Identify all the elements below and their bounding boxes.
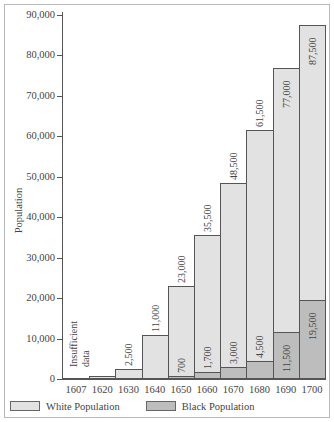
bar-label-white-1660: 35,500: [202, 205, 213, 233]
y-tick-label: 50,000: [10, 171, 55, 183]
y-tick-label: 90,000: [10, 9, 55, 21]
bar-white-1640: [142, 335, 169, 379]
y-axis: [62, 12, 63, 380]
y-tick-label: 30,000: [10, 252, 55, 264]
bar-label-white-1690: 77,000: [281, 80, 292, 108]
x-axis: [62, 379, 326, 380]
y-tick-label: 20,000: [10, 292, 55, 304]
annotation-insufficient: Insufficient: [68, 321, 79, 367]
y-tick-label: 40,000: [10, 211, 55, 223]
legend: White Population Black Population: [10, 398, 280, 414]
bar-black-1660: [194, 372, 221, 379]
y-tick-label: 70,000: [10, 90, 55, 102]
legend-swatch-white: [10, 401, 40, 411]
bar-label-white-1700: 87,500: [307, 38, 318, 66]
legend-swatch-black: [146, 401, 176, 411]
bar-label-black-1700: 19,500: [307, 313, 318, 341]
bar-label-black-1680: 4,500: [254, 335, 265, 358]
y-tick-label: 10,000: [10, 333, 55, 345]
legend-label-black: Black Population: [182, 401, 255, 412]
y-tick-label: 80,000: [10, 49, 55, 61]
bar-label-black-1660: 1,700: [202, 347, 213, 370]
legend-item-white: White Population: [10, 401, 120, 412]
annotation-data: data: [80, 350, 91, 367]
y-tick-label: 0: [10, 373, 55, 385]
legend-label-white: White Population: [46, 401, 120, 412]
bar-label-black-1690: 11,500: [281, 345, 292, 372]
bar-label-white-1680: 61,500: [254, 100, 265, 128]
bar-label-white-1640: 11,000: [150, 304, 161, 331]
y-tick-label: 60,000: [10, 130, 55, 142]
bar-label-white-1650: 23,000: [176, 255, 187, 283]
bar-white-1630: [115, 369, 142, 379]
legend-item-black: Black Population: [146, 401, 255, 412]
bar-label-white-1630: 2,500: [123, 343, 134, 366]
bar-black-1680: [246, 361, 273, 379]
bar-black-1670: [220, 367, 247, 379]
bar-label-black-1650: 700: [176, 358, 187, 373]
bar-label-white-1670: 48,500: [228, 152, 239, 180]
x-tick-label: 1700: [297, 384, 327, 395]
bar-label-black-1670: 3,000: [228, 341, 239, 364]
